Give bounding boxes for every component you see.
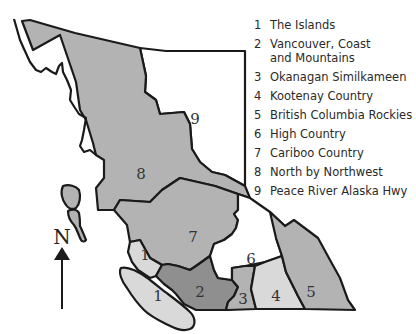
legend-label: British Columbia Rockies (270, 108, 412, 122)
legend-number: 5 (254, 108, 270, 122)
legend-label: North by Northwest (270, 165, 383, 179)
legend-item-5: 5 British Columbia Rockies (254, 108, 412, 122)
legend-label: Peace River Alaska Hwy (270, 184, 407, 198)
legend-item-9: 9 Peace River Alaska Hwy (254, 184, 412, 198)
legend-number: 2 (254, 37, 270, 65)
legend-item-3: 3 Okanagan Similkameen (254, 70, 412, 84)
legend-label: High Country (270, 127, 346, 141)
legend-label: Cariboo Country (270, 146, 364, 160)
legend-label: Kootenay Country (270, 89, 373, 103)
region-label-2: 2 (195, 283, 205, 301)
legend-number: 3 (254, 70, 270, 84)
region-label-5: 5 (306, 283, 316, 301)
legend-number: 9 (254, 184, 270, 198)
region-label-4: 4 (271, 287, 281, 305)
legend-item-7: 7 Cariboo Country (254, 146, 412, 160)
legend-number: 4 (254, 89, 270, 103)
region-label-9: 9 (190, 110, 200, 128)
legend-number: 7 (254, 146, 270, 160)
region-label-3: 3 (238, 290, 248, 308)
legend-item-1: 1 The Islands (254, 18, 412, 32)
legend-label: The Islands (270, 18, 335, 32)
legend-number: 1 (254, 18, 270, 32)
haida-gwaii-island-north[interactable] (62, 185, 80, 209)
region-label-8: 8 (136, 165, 146, 183)
legend-number: 6 (254, 127, 270, 141)
north-label: N (53, 225, 71, 249)
legend-item-4: 4 Kootenay Country (254, 89, 412, 103)
legend-item-8: 8 North by Northwest (254, 165, 412, 179)
region-label-1a: 1 (140, 246, 150, 264)
legend-number: 8 (254, 165, 270, 179)
legend-item-2: 2 Vancouver, Coast and Mountains (254, 37, 412, 65)
north-arrow-icon: N (53, 225, 71, 309)
region-label-6: 6 (246, 250, 256, 268)
map-legend: 1 The Islands 2 Vancouver, Coast and Mou… (254, 18, 412, 203)
legend-label: Okanagan Similkameen (270, 70, 406, 84)
legend-label: Vancouver, Coast and Mountains (270, 37, 371, 65)
region-label-7: 7 (188, 228, 198, 246)
legend-item-6: 6 High Country (254, 127, 412, 141)
region-label-1b: 1 (153, 287, 163, 305)
